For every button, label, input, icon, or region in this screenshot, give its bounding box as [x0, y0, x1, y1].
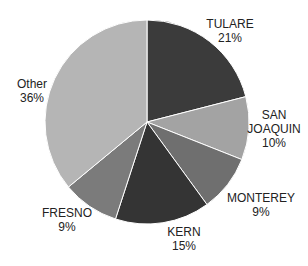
label-other: Other 36%: [12, 77, 52, 105]
label-monterey: MONTEREY 9%: [226, 191, 296, 219]
label-san-joaquin: SAN JOAQUIN 10%: [244, 108, 304, 150]
label-tulare: TULARE 21%: [200, 17, 260, 45]
label-fresno: FRESNO 9%: [42, 206, 92, 234]
label-kern: KERN 15%: [164, 225, 204, 253]
